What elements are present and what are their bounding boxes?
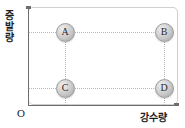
guide-line-row-cd xyxy=(28,88,174,89)
data-point-b-label: B xyxy=(161,27,168,37)
y-axis-label: 증발량 xyxy=(2,10,17,43)
y-axis-line xyxy=(28,7,29,106)
x-axis-label: 강수량 xyxy=(140,112,167,124)
data-point-d[interactable]: D xyxy=(155,79,174,98)
x-axis-end-cap xyxy=(174,103,179,106)
data-point-a[interactable]: A xyxy=(56,23,75,42)
data-point-b[interactable]: B xyxy=(155,23,174,42)
origin-label: O xyxy=(17,107,25,120)
data-point-c-label: C xyxy=(62,83,69,93)
data-point-a-label: A xyxy=(61,27,68,37)
guide-line-row-ab xyxy=(28,32,174,33)
scatter-diagram-figure: 증발량 강수량 O A B C D xyxy=(0,0,185,128)
data-point-c[interactable]: C xyxy=(56,79,75,98)
y-axis-end-cap xyxy=(26,6,31,9)
data-point-d-label: D xyxy=(160,83,167,93)
x-axis-line xyxy=(28,105,178,106)
